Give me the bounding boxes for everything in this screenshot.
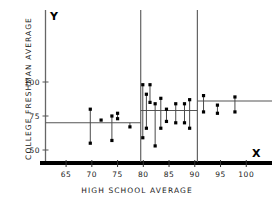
data-point: [165, 108, 168, 111]
plot-area: 5075100 65707580859095100 Y X: [0, 0, 276, 203]
x-tick-label: 75: [112, 170, 123, 179]
x-tick-label: 100: [238, 170, 254, 179]
step-regression-lines: [46, 101, 273, 123]
data-point: [145, 127, 148, 130]
x-tick-label: 65: [61, 170, 72, 179]
data-point: [216, 112, 219, 115]
y-axis-title: COLLEGE FRESHMAN AVERAGE: [24, 14, 33, 164]
x-tick-label: 80: [138, 170, 149, 179]
data-point: [202, 94, 205, 97]
data-point: [110, 114, 113, 117]
data-point: [116, 112, 119, 115]
data-point: [188, 127, 191, 130]
data-point: [202, 110, 205, 113]
data-point: [216, 104, 219, 107]
x-tick-label: 95: [215, 170, 226, 179]
x-axis-line: [40, 161, 272, 165]
y-axis-letter: Y: [49, 10, 59, 23]
x-tick-label: 90: [190, 170, 201, 179]
data-point: [128, 125, 131, 128]
data-point: [159, 97, 162, 100]
data-point: [116, 117, 119, 120]
scatter-chart: 5075100 65707580859095100 Y X COLLEGE FR…: [0, 0, 276, 203]
x-tick-label: 85: [164, 170, 175, 179]
data-point: [141, 83, 144, 86]
data-point: [141, 136, 144, 139]
data-point: [148, 83, 151, 86]
data-point: [233, 95, 236, 98]
data-point: [233, 110, 236, 113]
data-point: [89, 108, 92, 111]
data-point: [174, 121, 177, 124]
data-point: [145, 93, 148, 96]
data-point: [154, 102, 157, 105]
data-point: [110, 139, 113, 142]
data-point: [148, 101, 151, 104]
x-axis-letter: X: [252, 147, 261, 160]
data-point: [165, 120, 168, 123]
data-points: [89, 83, 237, 147]
data-point: [99, 118, 102, 121]
data-point: [183, 121, 186, 124]
data-point: [89, 142, 92, 145]
x-tick-label: 70: [87, 170, 98, 179]
data-point: [159, 127, 162, 130]
data-point: [183, 102, 186, 105]
data-point: [174, 102, 177, 105]
data-point: [154, 144, 157, 147]
data-point: [188, 98, 191, 101]
x-axis-title: HIGH SCHOOL AVERAGE: [62, 186, 212, 195]
